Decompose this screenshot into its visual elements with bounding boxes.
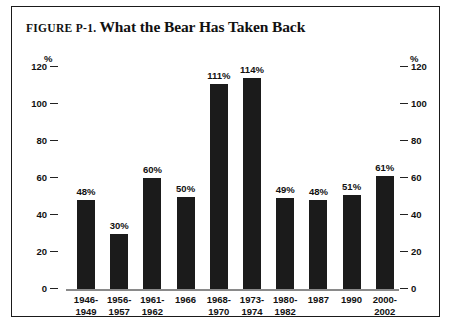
- right-axis-tick-label: 120: [411, 61, 427, 72]
- left-axis-tick-label: 80: [36, 135, 47, 146]
- bar: [110, 234, 128, 290]
- tick-mark: [50, 288, 58, 290]
- figure-frame: FIGURE P-1.What the Bear Has Taken Back …: [11, 6, 440, 317]
- category-label-line2: 1982: [263, 306, 307, 318]
- left-axis-tick-0: 0: [12, 283, 58, 294]
- left-axis-tick-label: 120: [31, 61, 47, 72]
- right-axis-tick-0: 0: [400, 283, 446, 294]
- right-axis-tick-label: 60: [411, 172, 422, 183]
- right-axis-tick-60: 60: [400, 172, 446, 183]
- figure-number-label: FIGURE P-1.: [26, 22, 96, 34]
- left-axis-tick-label: 0: [42, 283, 47, 294]
- bar-value-label: 114%: [231, 64, 273, 75]
- left-axis-tick-label: 20: [36, 246, 47, 257]
- figure-title-text: What the Bear Has Taken Back: [99, 18, 305, 35]
- bar: [343, 195, 361, 289]
- category-label-line2: 2002: [363, 306, 407, 318]
- tick-mark: [50, 103, 58, 105]
- bar: [376, 176, 394, 289]
- tick-mark: [400, 103, 408, 105]
- bar-value-label: 30%: [98, 220, 140, 231]
- bar: [309, 200, 327, 289]
- tick-mark: [50, 251, 58, 253]
- tick-mark: [400, 177, 408, 179]
- tick-mark: [400, 251, 408, 253]
- bar: [243, 78, 261, 289]
- right-axis-tick-label: 100: [411, 98, 427, 109]
- left-axis-tick-80: 80: [12, 135, 58, 146]
- figure-title-block: FIGURE P-1.What the Bear Has Taken Back: [26, 18, 305, 36]
- right-axis-tick-label: 0: [411, 283, 416, 294]
- right-axis-tick-label: 80: [411, 135, 422, 146]
- left-axis-tick-label: 40: [36, 209, 47, 220]
- category-label: 2000-2002: [363, 294, 407, 317]
- bar: [143, 178, 161, 289]
- tick-mark: [400, 140, 408, 142]
- left-axis-tick-100: 100: [12, 98, 58, 109]
- bar: [177, 197, 195, 290]
- x-axis-baseline: [66, 289, 399, 291]
- tick-mark: [50, 177, 58, 179]
- right-axis-tick-80: 80: [400, 135, 446, 146]
- right-axis-tick-40: 40: [400, 209, 446, 220]
- right-axis-tick-100: 100: [400, 98, 446, 109]
- chart-plot-area: 48%30%60%50%111%114%49%48%51%61%: [66, 67, 399, 289]
- right-axis-tick-20: 20: [400, 246, 446, 257]
- tick-mark: [400, 288, 408, 290]
- left-axis-tick-40: 40: [12, 209, 58, 220]
- tick-mark: [400, 66, 408, 68]
- bar: [210, 84, 228, 289]
- left-axis-tick-120: 120: [12, 61, 58, 72]
- bar-value-label: 61%: [364, 162, 406, 173]
- tick-mark: [50, 214, 58, 216]
- left-axis-tick-20: 20: [12, 246, 58, 257]
- bar-value-label: 50%: [165, 183, 207, 194]
- bar-value-label: 51%: [331, 181, 373, 192]
- tick-mark: [50, 66, 58, 68]
- bar-value-label: 60%: [131, 164, 173, 175]
- tick-mark: [400, 214, 408, 216]
- left-axis-tick-60: 60: [12, 172, 58, 183]
- left-axis-tick-label: 60: [36, 172, 47, 183]
- bar-value-label: 48%: [65, 186, 107, 197]
- right-axis-tick-label: 40: [411, 209, 422, 220]
- category-label-line1: 2000-: [363, 294, 407, 306]
- bar: [77, 200, 95, 289]
- right-axis-tick-label: 20: [411, 246, 422, 257]
- bar: [276, 198, 294, 289]
- right-axis-tick-120: 120: [400, 61, 446, 72]
- left-axis-tick-label: 100: [31, 98, 47, 109]
- tick-mark: [50, 140, 58, 142]
- category-label-line2: 1962: [130, 306, 174, 318]
